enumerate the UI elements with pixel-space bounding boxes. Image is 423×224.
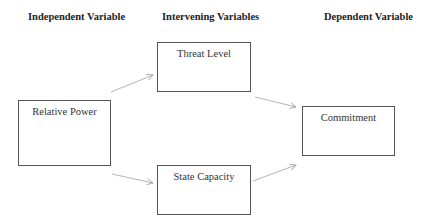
arrow-relative-power-to-state-capacity — [112, 174, 153, 183]
arrow-relative-power-to-threat-level — [111, 75, 153, 92]
arrow-state-capacity-to-commitment — [253, 165, 296, 181]
arrows-layer — [0, 0, 423, 224]
arrow-threat-level-to-commitment — [255, 97, 296, 107]
